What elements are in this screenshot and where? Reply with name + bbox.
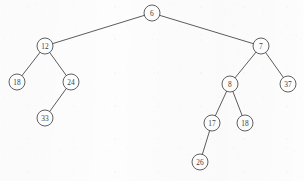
tree-node[interactable]: 12 [37, 38, 53, 54]
binary-tree-canvas: 6127182433837171826 [0, 0, 304, 181]
tree-node[interactable]: 6 [144, 5, 160, 21]
tree-node-label: 12 [41, 42, 49, 51]
tree-edge [50, 52, 67, 75]
tree-node-label: 33 [41, 114, 49, 123]
tree-edge [53, 15, 145, 43]
tree-node-label: 37 [284, 80, 292, 89]
tree-edge [22, 52, 40, 75]
tree-edge [202, 131, 209, 155]
tree-edge [266, 53, 284, 78]
tree-node[interactable]: 33 [37, 110, 53, 126]
tree-node-label: 8 [228, 80, 232, 89]
tree-node[interactable]: 37 [280, 76, 296, 92]
tree-node[interactable]: 7 [253, 38, 269, 54]
tree-edge [160, 15, 254, 43]
tree-edge-layer [22, 15, 283, 154]
tree-node-label: 18 [241, 119, 249, 128]
tree-edge [215, 91, 226, 115]
tree-node[interactable]: 8 [222, 76, 238, 92]
tree-node-label: 17 [208, 119, 216, 128]
tree-edge [50, 88, 67, 111]
tree-node-layer: 6127182433837171826 [9, 5, 296, 170]
tree-edge [233, 91, 242, 115]
tree-edge [235, 52, 256, 78]
tree-node[interactable]: 24 [63, 74, 79, 90]
tree-node[interactable]: 18 [237, 115, 253, 131]
tree-node[interactable]: 18 [9, 74, 25, 90]
tree-node-label: 18 [13, 78, 21, 87]
tree-node-label: 6 [150, 9, 154, 18]
binary-tree-figure: 6127182433837171826 [0, 0, 304, 181]
tree-node-label: 24 [67, 78, 75, 87]
tree-node-label: 26 [196, 158, 204, 167]
tree-node-label: 7 [259, 42, 263, 51]
tree-node[interactable]: 26 [192, 154, 208, 170]
tree-node[interactable]: 17 [204, 115, 220, 131]
